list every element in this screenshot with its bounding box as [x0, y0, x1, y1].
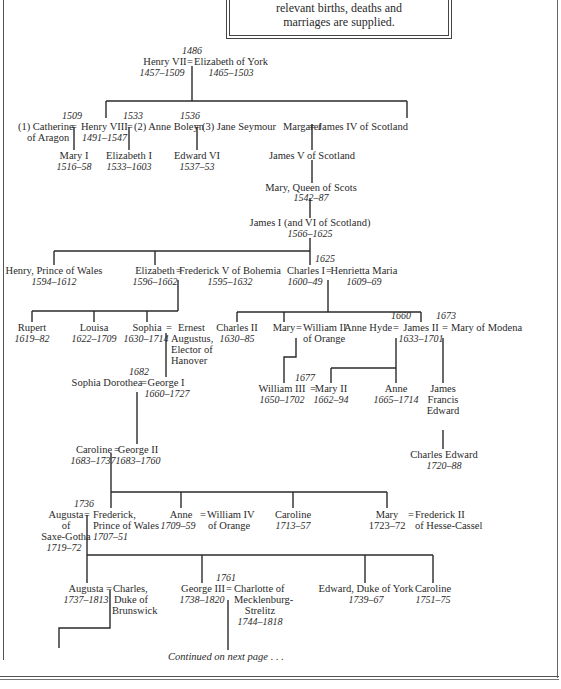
- dates-augusta-of-saxe-gotha: 1719–72: [47, 542, 82, 554]
- dates-george1: 1660–1727: [145, 388, 190, 400]
- dates-james2: 1633–1701: [399, 333, 444, 345]
- dates-mary-of-hesse: 1723–72: [369, 520, 406, 532]
- dates-charles2: 1630–85: [220, 333, 255, 345]
- dates-frederick-prince-of-wales: 1707–51: [93, 531, 128, 543]
- dates-charles1: 1600–49: [288, 276, 323, 288]
- dates-mary2: 1662–94: [314, 394, 349, 406]
- person-frederick2-line2: of Hesse-Cassel: [415, 520, 482, 532]
- dates-louisa: 1622–1709: [72, 333, 117, 345]
- dates-george3: 1738–1820: [180, 594, 225, 606]
- dates-caroline-of-ansbach: 1683–1737: [71, 455, 116, 467]
- person-william2-line2: of Orange: [303, 333, 345, 345]
- person-margaret: Margaret: [283, 121, 321, 133]
- person-mary-of-modena: Mary of Modena: [451, 322, 522, 334]
- dates-james1: 1566–1625: [288, 228, 333, 240]
- marriage-symbol: =: [309, 121, 315, 133]
- dates-rupert: 1619–82: [15, 333, 50, 345]
- dates-sophia: 1630–1714: [124, 333, 169, 345]
- continued-note: Continued on next page . . .: [168, 651, 284, 662]
- dates-george2: 1683–1760: [116, 455, 161, 467]
- dates-frederick5: 1595–1632: [208, 276, 253, 288]
- person-james-francis-edward-line3: Edward: [427, 405, 460, 417]
- dates-elizabeth-of-york: 1465–1503: [209, 67, 254, 79]
- dates-anne-of-orange: 1709–59: [161, 520, 196, 532]
- person-ernest-augustus-line4: Hanover: [171, 355, 207, 367]
- dates-mary1: 1516–58: [57, 161, 92, 173]
- marriage-symbol: =: [187, 56, 193, 68]
- person-jane-seymour: (3) Jane Seymour: [202, 121, 276, 133]
- marriage-symbol: =: [106, 583, 112, 595]
- marriage-symbol: =: [194, 121, 200, 133]
- dates-edward6: 1537–53: [180, 161, 215, 173]
- marriage-symbol: =: [200, 509, 206, 521]
- dates-elizabeth-bohemia: 1596–1662: [133, 276, 178, 288]
- person-catherine-of-aragon-line2: of Aragon: [27, 132, 69, 144]
- marriage-symbol: =: [226, 583, 232, 595]
- dates-charles-edward: 1720–88: [427, 460, 462, 472]
- dates-edward-duke-of-york: 1739–67: [349, 594, 384, 606]
- dates-anne: 1665–1714: [374, 394, 419, 406]
- dates-henrietta-maria: 1609–69: [347, 276, 382, 288]
- person-mary-of-orange: Mary: [273, 322, 296, 334]
- dates-henry-prince-of-wales: 1594–1612: [32, 276, 77, 288]
- dates-augusta-b: 1737–1813: [64, 594, 109, 606]
- dates-charlotte: 1744–1818: [238, 616, 283, 628]
- marriage-symbol: =: [127, 121, 133, 133]
- dates-henry8: 1491–1547: [82, 132, 127, 144]
- dates-henry7: 1457–1509: [140, 67, 185, 79]
- person-james5: James V of Scotland: [269, 150, 355, 162]
- family-tree-page: relevant births, deaths and marriages ar…: [0, 0, 561, 689]
- dates-mary-queen-of-scots: 1542–87: [294, 192, 329, 204]
- marriage-symbol: =: [442, 322, 448, 334]
- person-charles-of-brunswick-line3: Brunswick: [112, 605, 158, 617]
- dates-caroline-b: 1713–57: [276, 520, 311, 532]
- marriage-date-charles1: 1625: [315, 253, 335, 265]
- person-anne-hyde: Anne Hyde: [344, 322, 392, 334]
- marriage-symbol: =: [71, 121, 77, 133]
- marriage-symbol: =: [296, 322, 302, 334]
- person-sophia-dorothea: Sophia Dorothea: [72, 377, 143, 389]
- marriage-date-modena: 1673: [436, 310, 456, 322]
- dates-william3: 1650–1702: [260, 394, 305, 406]
- dates-caroline-c: 1751–75: [416, 594, 451, 606]
- marriage-symbol: =: [84, 509, 90, 521]
- person-james4: James IV of Scotland: [318, 121, 408, 133]
- dates-elizabeth1: 1533–1603: [107, 161, 152, 173]
- marriage-date-hyde: 1660: [391, 310, 411, 322]
- person-william4-line2: of Orange: [208, 520, 250, 532]
- marriage-symbol: =: [408, 509, 414, 521]
